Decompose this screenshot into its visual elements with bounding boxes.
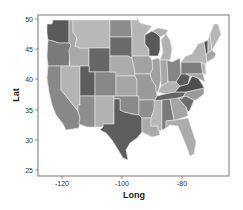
- x-tick-label: -100: [115, 180, 129, 187]
- x-axis-title: Long: [123, 190, 145, 200]
- state-new-mexico: [95, 96, 114, 127]
- state-iowa: [132, 56, 153, 74]
- state-north-dakota: [110, 20, 132, 37]
- state-south-dakota: [110, 37, 132, 58]
- state-pennsylvania: [181, 62, 203, 74]
- y-tick-label: 40: [25, 76, 33, 83]
- y-axis-title: Lat: [11, 88, 21, 102]
- x-tick-label: -80: [177, 180, 187, 187]
- state-arizona: [78, 96, 95, 127]
- state-kansas: [116, 76, 137, 96]
- y-tick-label: 45: [25, 46, 33, 53]
- state-oregon: [47, 40, 71, 66]
- state-indiana: [160, 60, 168, 86]
- y-tick-label: 50: [25, 16, 33, 23]
- y-tick-label: 35: [25, 107, 33, 114]
- state-wyoming: [89, 48, 110, 72]
- y-axis: 50 45 40 35 30 25: [25, 16, 38, 174]
- y-tick-label: 25: [25, 167, 33, 174]
- state-montana: [73, 20, 110, 48]
- choropleth-chart: 50 45 40 35 30 25 -120 -100 -80 Long Lat: [0, 0, 243, 210]
- x-tick-label: -120: [55, 180, 69, 187]
- y-tick-label: 30: [25, 137, 33, 144]
- x-axis: -120 -100 -80: [55, 176, 187, 187]
- state-colorado: [95, 72, 116, 96]
